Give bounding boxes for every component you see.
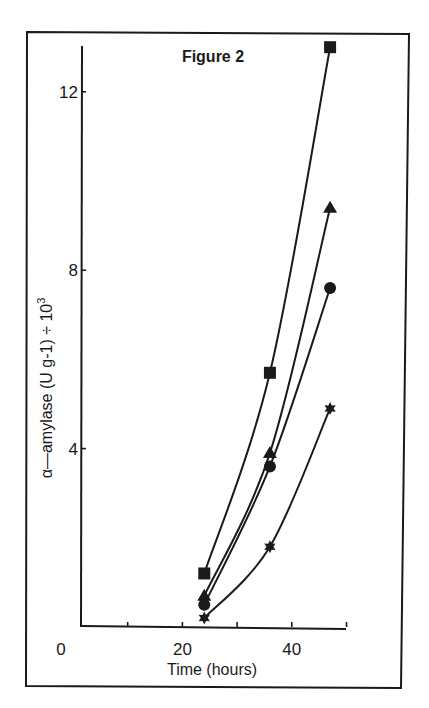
series-line-square [204, 47, 330, 573]
square-marker [198, 567, 210, 579]
y-tick-label: 8 [69, 261, 78, 280]
y-axis-label-text: α—amylase (U g-1) ÷ 10 [38, 304, 55, 479]
data-series [197, 41, 337, 624]
star-marker [324, 402, 335, 415]
triangle-marker [323, 201, 337, 213]
chart-title: Figure 2 [182, 48, 244, 65]
circle-marker [324, 282, 336, 294]
y-tick-label: 12 [59, 83, 78, 102]
series-line-triangle [204, 208, 330, 596]
y-axis-label-superscript: 3 [35, 298, 47, 304]
x-tick-label: 40 [282, 640, 301, 659]
circle-marker [264, 460, 276, 472]
square-marker [264, 367, 276, 379]
y-tick-label: 4 [69, 440, 78, 459]
square-marker [324, 41, 336, 53]
x-tick-label: 0 [56, 640, 65, 659]
figure-2-chart: Figure 2 02040 4812 Time (hours) α—amyla… [0, 0, 429, 708]
circle-marker [198, 599, 210, 611]
figure-frame [26, 32, 409, 688]
series-line-circle [204, 288, 330, 605]
y-axis-label: α—amylase (U g-1) ÷ 103 [35, 298, 55, 479]
series-line-star [204, 408, 330, 618]
x-axis [81, 626, 346, 629]
x-axis-label: Time (hours) [167, 661, 257, 678]
x-tick-label: 20 [173, 640, 192, 659]
y-axis [81, 46, 82, 627]
